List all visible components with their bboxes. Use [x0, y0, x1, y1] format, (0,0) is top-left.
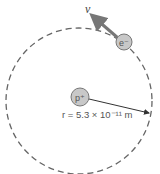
proton: p⁺ — [71, 88, 89, 106]
electron: e⁻ — [116, 34, 132, 50]
electron-label: e⁻ — [119, 38, 129, 48]
velocity-arrow — [96, 19, 118, 38]
radius-label: r = 5.3 × 10⁻¹¹ m — [62, 109, 133, 120]
proton-label: p⁺ — [75, 93, 85, 103]
velocity-label: v — [85, 2, 91, 16]
bohr-diagram: v e⁻ p⁺ r = 5.3 × 10⁻¹¹ m — [0, 0, 160, 174]
